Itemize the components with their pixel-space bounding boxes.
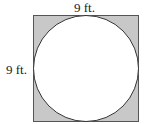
left-side-label: 9 ft. bbox=[6, 63, 27, 76]
inscribed-circle bbox=[34, 16, 139, 122]
top-side-label: 9 ft. bbox=[74, 1, 95, 14]
